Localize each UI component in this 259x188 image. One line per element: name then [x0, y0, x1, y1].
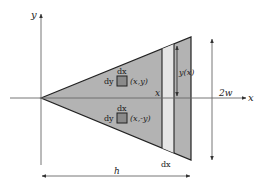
lower-dy-label: dy: [104, 114, 114, 123]
upper-coord-label: (x,y): [130, 77, 148, 86]
thickness-label: 2w: [218, 88, 233, 98]
y-axis-label: y: [30, 9, 37, 20]
upper-dx-label: dx: [117, 67, 127, 76]
strip-element: [162, 44, 174, 153]
length-label: h: [114, 166, 120, 176]
lower-dx-label: dx: [117, 104, 127, 113]
upper-dy-label: dy: [104, 77, 114, 86]
upper-element-square: [117, 76, 127, 86]
strip-x-label: x: [155, 88, 160, 98]
fin-diagram: y x dx dy (x,y) dx dy (x,-y) x y(x) dx 2…: [0, 0, 259, 188]
x-axis-label: x: [248, 92, 254, 103]
lower-element-square: [117, 113, 127, 123]
yx-label: y(x): [178, 68, 194, 77]
strip-dx-label: dx: [161, 160, 171, 169]
lower-coord-label: (x,-y): [130, 114, 151, 123]
